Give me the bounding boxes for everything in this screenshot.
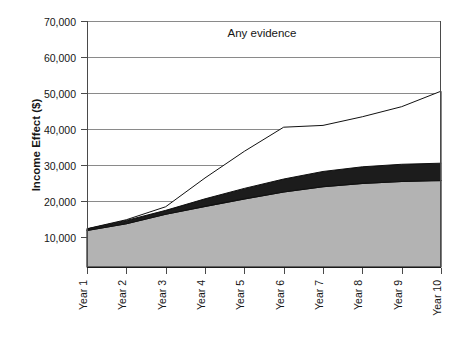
x-tick-label-3: Year 4	[195, 280, 207, 310]
x-tick-label-7: Year 8	[352, 280, 364, 310]
x-tick-label-0: Year 1	[77, 280, 89, 310]
y-tick-label-40000: 40,000	[44, 124, 76, 136]
x-tick-label-6: Year 7	[313, 280, 325, 310]
y-axis-ticks: 10,00020,00030,00040,00050,00060,00070,0…	[44, 16, 87, 244]
y-tick-label-70000: 70,000	[44, 16, 76, 28]
x-tick-label-4: Year 5	[234, 280, 246, 310]
x-axis-labels: Year 1Year 2Year 3Year 4Year 5Year 6Year…	[77, 280, 443, 316]
y-tick-label-60000: 60,000	[44, 52, 76, 64]
x-tick-label-5: Year 6	[274, 280, 286, 310]
y-tick-label-20000: 20,000	[44, 196, 76, 208]
x-tick-label-1: Year 2	[116, 280, 128, 310]
chart-container: 10,00020,00030,00040,00050,00060,00070,0…	[0, 0, 467, 342]
x-tick-label-2: Year 3	[156, 280, 168, 310]
chart-title: Any evidence	[227, 27, 296, 39]
x-tick-label-8: Year 9	[392, 280, 404, 310]
x-tick-label-9: Year 10	[431, 280, 443, 316]
y-tick-label-10000: 10,000	[44, 232, 76, 244]
x-axis-ticks	[88, 268, 442, 274]
area-chart: 10,00020,00030,00040,00050,00060,00070,0…	[0, 0, 467, 342]
y-tick-label-30000: 30,000	[44, 160, 76, 172]
y-tick-label-50000: 50,000	[44, 88, 76, 100]
y-axis-title: Income Effect ($)	[30, 99, 42, 192]
